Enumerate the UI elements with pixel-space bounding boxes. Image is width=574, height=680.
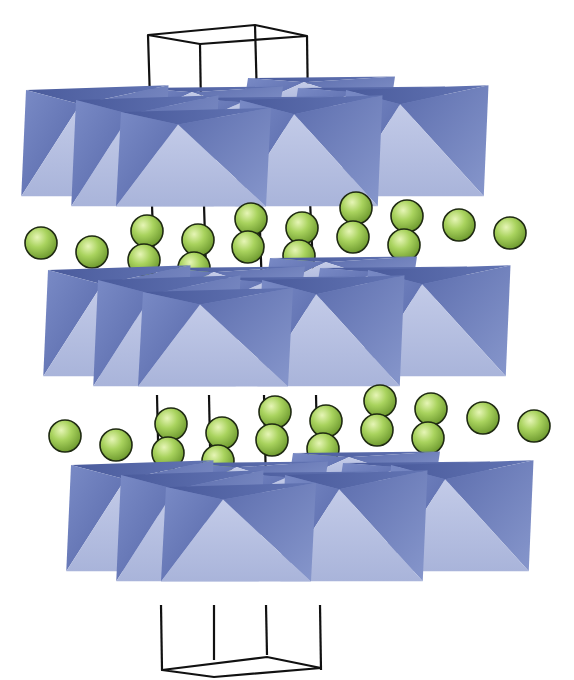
octahedral-layer-2 <box>43 257 510 387</box>
crystal-structure-diagram <box>0 0 574 680</box>
octahedral-layer-3 <box>66 452 533 582</box>
octahedral-layer-1 <box>21 77 488 207</box>
unit-cell-bottom <box>161 605 321 677</box>
